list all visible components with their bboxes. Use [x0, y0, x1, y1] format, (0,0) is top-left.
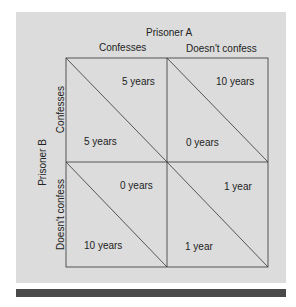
- cell-cc-a: 5 years: [122, 76, 155, 87]
- row-header-doesnt-confess: Doesn't confess: [55, 175, 66, 255]
- column-header-doesnt-confess: Doesn't confess: [186, 43, 257, 54]
- row-header-confesses: Confesses: [55, 80, 66, 140]
- cell-dd-a: 1 year: [224, 181, 252, 192]
- cell-cd-a: 10 years: [216, 76, 254, 87]
- cell-cd-b: 0 years: [186, 137, 219, 148]
- cell-cc-b: 5 years: [84, 136, 117, 147]
- prisoner-a-label: Prisoner A: [146, 27, 192, 38]
- cell-dc-b: 10 years: [84, 240, 122, 251]
- cell-dd-b: 1 year: [185, 241, 213, 252]
- column-header-confesses: Confesses: [99, 42, 146, 53]
- cell-dc-a: 0 years: [120, 180, 153, 191]
- prisoner-b-label: Prisoner B: [37, 133, 48, 193]
